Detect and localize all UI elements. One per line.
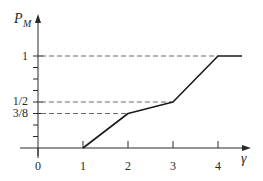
x-tick-label-4: 4 <box>215 159 221 173</box>
x-tick-label-2: 2 <box>125 159 131 173</box>
y-axis-label: P <box>13 11 23 26</box>
y-axis-label-subscript: M <box>22 18 32 29</box>
y-axis-arrow-icon <box>35 14 41 23</box>
piecewise-linear-chart: P M 1 1/2 3/8 0 1 2 3 4 γ <box>0 0 263 181</box>
x-tick-label-1: 1 <box>80 159 86 173</box>
x-tick-label-0: 0 <box>35 159 41 173</box>
y-tick-label-3-8: 3/8 <box>13 106 28 120</box>
x-axis-label: γ <box>241 151 247 166</box>
x-tick-label-3: 3 <box>170 159 176 173</box>
y-tick-label-1: 1 <box>22 49 28 63</box>
